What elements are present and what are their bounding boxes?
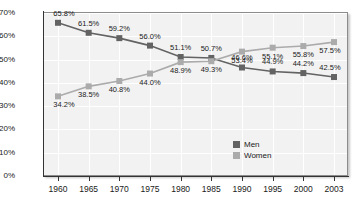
line-chart: 0%10%20%30%40%50%60%70% 1960196519701975… bbox=[0, 0, 362, 204]
data-label: 53.4% bbox=[231, 57, 252, 65]
x-axis-tick-mark bbox=[181, 177, 182, 181]
gridline-vertical bbox=[58, 13, 59, 175]
x-axis-tick-mark bbox=[89, 177, 90, 181]
data-label: 44.2% bbox=[293, 60, 314, 68]
legend-swatch-women bbox=[233, 152, 240, 159]
x-axis-tick-mark bbox=[242, 177, 243, 181]
x-axis-tick-mark bbox=[58, 177, 59, 181]
data-label: 55.8% bbox=[293, 51, 314, 59]
legend-label-men: Men bbox=[244, 140, 260, 149]
y-axis-tick-label: 70% bbox=[0, 9, 15, 17]
gridline-vertical bbox=[334, 13, 335, 175]
gridline-vertical bbox=[303, 13, 304, 175]
data-label: 61.5% bbox=[78, 20, 99, 28]
y-axis-tick-label: 20% bbox=[0, 125, 15, 133]
gridline-vertical bbox=[119, 13, 120, 175]
data-label: 38.5% bbox=[78, 91, 99, 99]
y-axis-tick-label: 0% bbox=[0, 172, 15, 180]
data-label: 50.7% bbox=[201, 45, 222, 53]
gridline-vertical bbox=[211, 13, 212, 175]
x-axis-tick-mark bbox=[211, 177, 212, 181]
data-label: 40.8% bbox=[109, 86, 130, 94]
data-label: 59.2% bbox=[109, 25, 130, 33]
x-axis-tick-mark bbox=[150, 177, 151, 181]
data-label: 51.1% bbox=[170, 44, 191, 52]
legend-item-women: Women bbox=[233, 150, 271, 161]
data-label: 48.9% bbox=[170, 67, 191, 75]
data-label: 42.5% bbox=[319, 64, 340, 72]
y-axis-tick-label: 50% bbox=[0, 56, 15, 64]
data-label: 55.1% bbox=[262, 53, 283, 61]
gridline-vertical bbox=[273, 13, 274, 175]
gridline-vertical bbox=[181, 13, 182, 175]
legend-swatch-men bbox=[233, 141, 240, 148]
data-label: 49.3% bbox=[201, 66, 222, 74]
data-label: 44.0% bbox=[139, 79, 160, 87]
data-label: 34.2% bbox=[53, 101, 74, 109]
x-axis-tick-label: 2003 bbox=[314, 184, 354, 194]
data-label: 57.5% bbox=[319, 47, 340, 55]
y-axis-tick-label: 60% bbox=[0, 32, 15, 40]
x-axis-tick-mark bbox=[334, 177, 335, 181]
y-axis-line bbox=[43, 11, 44, 177]
y-axis-tick-label: 40% bbox=[0, 79, 15, 87]
y-axis-tick-label: 30% bbox=[0, 102, 15, 110]
y-axis-tick-label: 10% bbox=[0, 149, 15, 157]
data-label: 56.0% bbox=[139, 33, 160, 41]
legend-item-men: Men bbox=[233, 139, 271, 150]
legend-label-women: Women bbox=[244, 151, 271, 160]
x-axis-tick-mark bbox=[119, 177, 120, 181]
data-label: 65.8% bbox=[53, 10, 74, 18]
x-axis-tick-mark bbox=[303, 177, 304, 181]
x-axis-tick-mark bbox=[273, 177, 274, 181]
chart-legend: Men Women bbox=[233, 139, 271, 161]
